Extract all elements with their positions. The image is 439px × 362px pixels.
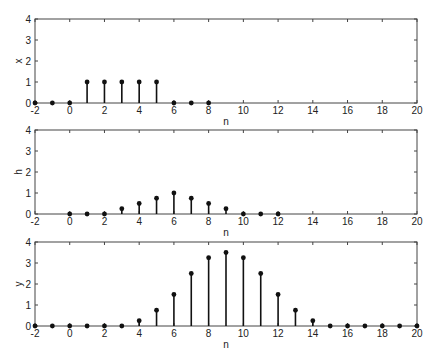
x-axis-label: n [223,339,229,350]
x-tick-label: 14 [307,105,319,116]
stem-marker [258,212,263,217]
x-tick-label: 12 [273,216,285,227]
subplot-h: -20246810121416182001234nh [13,125,423,239]
y-tick-label: 0 [25,98,31,109]
stem-marker [119,80,124,85]
axes-box [35,130,417,214]
y-axis-label: y [13,282,24,287]
stem-marker [154,196,159,201]
stem-marker [172,101,177,106]
stem-marker [154,80,159,85]
y-axis-label: x [13,59,24,64]
stem-marker [224,206,229,211]
x-tick-label: 14 [307,216,319,227]
stem-marker [241,212,246,217]
stem-marker [85,80,90,85]
stem-marker [328,324,333,329]
x-tick-label: 12 [273,105,285,116]
y-tick-label: 0 [25,321,31,332]
x-tick-label: 18 [377,105,389,116]
x-tick-label: 18 [377,216,389,227]
stem-marker [137,80,142,85]
subplot-x: -20246810121416182001234nx [13,14,423,128]
x-tick-label: 20 [411,328,423,339]
x-tick-label: 6 [171,105,177,116]
stem-marker [189,271,194,276]
x-tick-label: 16 [342,105,354,116]
stem-marker [33,324,38,329]
stem-marker [137,201,142,206]
x-tick-label: 4 [136,328,142,339]
stem-marker [258,271,263,276]
stem-plot-figure: -20246810121416182001234nx -202468101214… [0,0,439,362]
x-tick-label: 18 [377,328,389,339]
stem-marker [119,324,124,329]
x-tick-label: 10 [238,105,250,116]
stem-marker [345,324,350,329]
stem-marker [67,324,72,329]
x-tick-label: 20 [411,216,423,227]
x-tick-label: 4 [136,216,142,227]
x-tick-label: 20 [411,105,423,116]
x-tick-label: 8 [206,328,212,339]
x-tick-label: 8 [206,216,212,227]
x-tick-label: 8 [206,105,212,116]
y-tick-label: 2 [25,167,31,178]
stem-marker [397,324,402,329]
y-tick-label: 4 [25,237,31,248]
y-tick-label: 1 [25,188,31,199]
y-tick-label: 3 [25,258,31,269]
x-tick-label: 2 [102,216,108,227]
stem-marker [67,212,72,217]
x-tick-label: -2 [31,216,40,227]
stem-marker [33,101,38,106]
x-tick-label: 2 [102,105,108,116]
stem-marker [276,292,281,297]
stem-marker [189,101,194,106]
x-axis-label: n [223,227,229,238]
y-tick-label: 2 [25,279,31,290]
y-tick-label: 3 [25,35,31,46]
stem-marker [206,201,211,206]
stem-marker [85,212,90,217]
y-tick-label: 1 [25,77,31,88]
stem-marker [50,324,55,329]
x-tick-label: 14 [307,328,319,339]
stem-marker [154,308,159,313]
x-tick-label: 6 [171,216,177,227]
subplot-y: -20246810121416182001234ny [13,237,423,351]
stem-marker [172,292,177,297]
stem-marker [293,308,298,313]
stem-marker [102,212,107,217]
stem-marker [310,318,315,323]
x-tick-label: 16 [342,328,354,339]
y-tick-label: 4 [25,125,31,136]
x-tick-label: 0 [67,216,73,227]
y-tick-label: 4 [25,14,31,25]
x-axis-label: n [223,116,229,127]
x-tick-label: -2 [31,328,40,339]
x-tick-label: 4 [136,105,142,116]
y-tick-label: 3 [25,146,31,157]
stem-marker [172,191,177,196]
stem-marker [67,101,72,106]
x-tick-label: 16 [342,216,354,227]
x-tick-label: 0 [67,328,73,339]
y-tick-label: 2 [25,56,31,67]
stem-marker [189,196,194,201]
y-tick-label: 0 [25,209,31,220]
stem-marker [380,324,385,329]
stem-marker [85,324,90,329]
stem-marker [119,206,124,211]
x-tick-label: 0 [67,105,73,116]
y-axis-label: h [13,169,24,175]
stem-marker [206,101,211,106]
x-tick-label: 2 [102,328,108,339]
x-tick-label: 12 [273,328,285,339]
x-tick-label: 6 [171,328,177,339]
stem-marker [137,318,142,323]
y-tick-label: 1 [25,300,31,311]
stem-marker [415,324,420,329]
stem-marker [241,255,246,260]
axes-box [35,19,417,103]
